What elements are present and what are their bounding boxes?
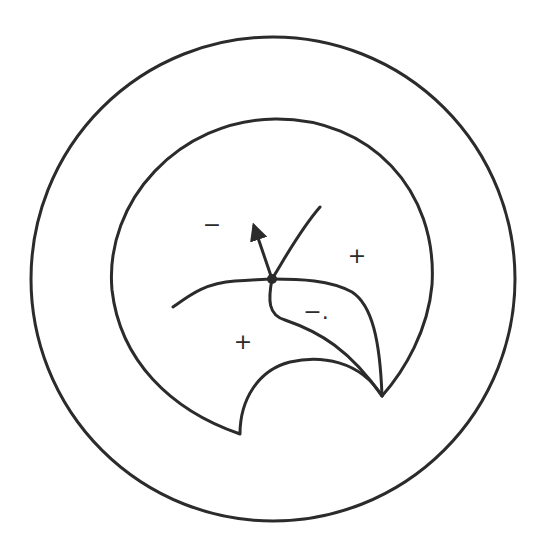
label-minus-lower: −. — [303, 301, 328, 323]
direction-arrow — [254, 226, 272, 279]
branch-curve — [272, 207, 320, 279]
horizontal-curve — [173, 279, 382, 396]
diagram-canvas — [0, 0, 538, 545]
lens-curve — [270, 279, 382, 396]
label-minus-top-left: − — [203, 214, 221, 236]
label-plus-right: + — [348, 245, 366, 267]
label-plus-lower-left: + — [234, 331, 252, 353]
junction-node — [267, 274, 277, 284]
